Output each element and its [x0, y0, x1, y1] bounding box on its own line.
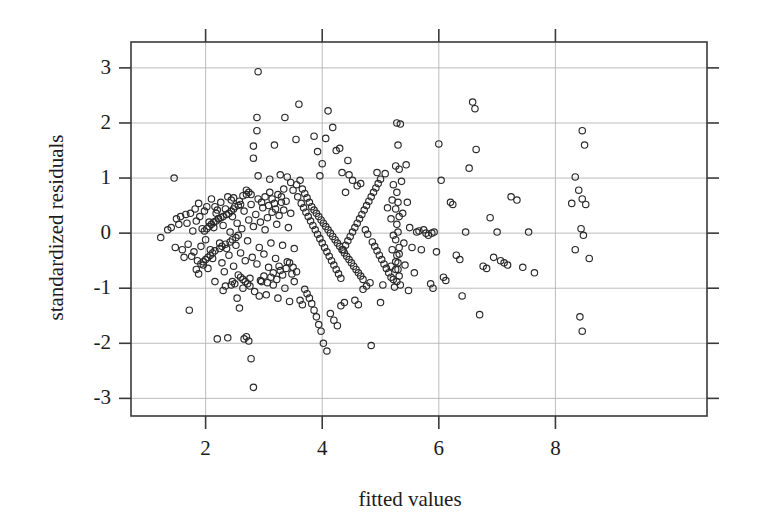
- x-tick-label: 8: [535, 438, 575, 459]
- x-tick-label: 6: [419, 438, 459, 459]
- y-tick-label: 2: [67, 112, 111, 133]
- y-tick-label: 0: [67, 222, 111, 243]
- y-tick-label: 1: [67, 167, 111, 188]
- x-tick-label: 2: [186, 438, 226, 459]
- axis-ticks-group: [119, 29, 719, 429]
- y-tick-label: 3: [67, 57, 111, 78]
- y-tick-label: -2: [67, 332, 111, 353]
- gridlines-group: [131, 42, 707, 416]
- x-axis-label: fitted values: [310, 487, 510, 512]
- scatter-plot-canvas: [0, 0, 758, 531]
- plot-frame: [131, 42, 707, 416]
- y-axis-label: standardized residuals: [44, 98, 69, 358]
- data-points-group: [158, 69, 593, 391]
- y-tick-label: -1: [67, 277, 111, 298]
- residual-plot-figure: 3210-1-2-3 2468 fitted values standardiz…: [0, 0, 758, 531]
- x-tick-label: 4: [302, 438, 342, 459]
- y-tick-label: -3: [67, 387, 111, 408]
